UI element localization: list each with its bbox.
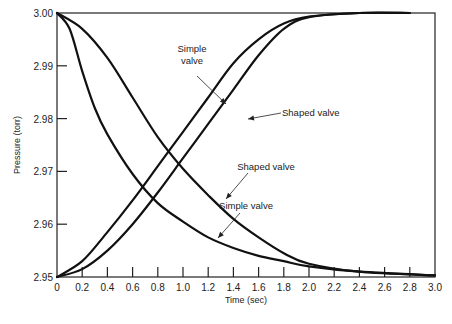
x-tick-label: 0.6 (126, 282, 140, 293)
x-tick-label: 0.4 (100, 282, 114, 293)
x-tick-label: 3.0 (428, 282, 442, 293)
x-tick-label: 0.8 (151, 282, 165, 293)
y-tick-label: 2.96 (34, 219, 54, 230)
x-tick-label: 2.8 (403, 282, 417, 293)
y-axis-label: Pressure (torr) (12, 116, 22, 174)
y-tick-label: 2.98 (34, 114, 54, 125)
x-axis-label: Time (sec) (225, 295, 267, 305)
y-tick-label: 2.95 (34, 272, 54, 283)
annotation-label: Simple (177, 43, 206, 54)
annotation-shaped-valve-falling: Shaped valve (226, 161, 295, 199)
x-tick-label: 2.6 (378, 282, 392, 293)
x-tick-label: 1.8 (277, 282, 291, 293)
y-tick-label: 2.97 (34, 166, 54, 177)
x-tick-label: 0.2 (75, 282, 89, 293)
annotations: SimplevalveShaped valveShaped valveSimpl… (177, 43, 339, 238)
simple-valve-falling-curve (57, 13, 435, 275)
simple-valve-rising-curve (57, 13, 410, 277)
x-tick-label: 1.0 (176, 282, 190, 293)
annotation-label: Simple valve (219, 200, 273, 211)
y-tick-label: 3.00 (34, 8, 54, 19)
data-curves (57, 13, 435, 277)
pressure-time-chart: 00.20.40.60.81.01.21.41.61.82.02.22.42.6… (0, 0, 452, 324)
x-tick-label: 1.2 (201, 282, 215, 293)
annotation-label: Shaped valve (282, 107, 340, 118)
annotation-label: valve (181, 55, 203, 66)
x-tick-label: 1.4 (226, 282, 240, 293)
x-tick-label: 2.4 (352, 282, 366, 293)
y-tick-label: 2.99 (34, 61, 54, 72)
x-tick-label: 0 (54, 282, 60, 293)
x-tick-label: 1.6 (252, 282, 266, 293)
x-tick-label: 2.0 (302, 282, 316, 293)
annotation-label: Shaped valve (237, 161, 295, 172)
annotation-simple-valve-rising: Simplevalve (177, 43, 226, 104)
x-tick-label: 2.2 (327, 282, 341, 293)
arrowhead-icon (248, 115, 254, 120)
annotation-shaped-valve-rising: Shaped valve (248, 107, 340, 120)
shaped-valve-rising-curve (57, 13, 410, 277)
annotation-simple-valve-falling: Simple valve (218, 200, 273, 238)
